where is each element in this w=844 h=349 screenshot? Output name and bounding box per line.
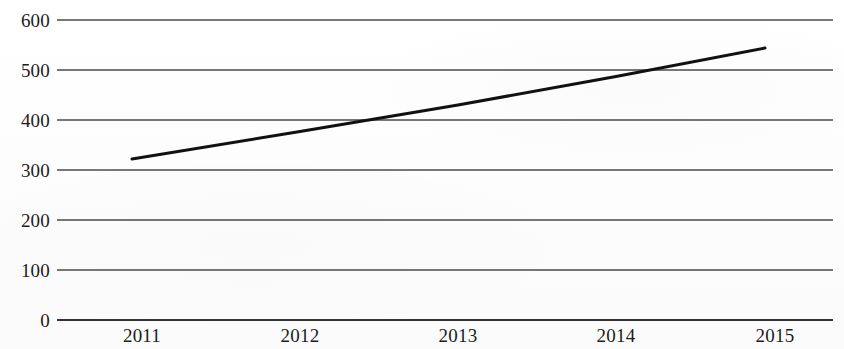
x-tick-label-2014: 2014: [571, 326, 661, 346]
x-tick-label-2012: 2012: [255, 326, 345, 346]
x-tick-label-2015: 2015: [730, 326, 820, 346]
x-axis-tick-labels: 2011 2012 2013 2014 2015: [0, 0, 844, 349]
x-tick-label-2013: 2013: [413, 326, 503, 346]
x-tick-label-2011: 2011: [97, 326, 187, 346]
line-chart-figure: 600 500 400 300 200 100 0 2011 2012 2013…: [0, 0, 844, 349]
